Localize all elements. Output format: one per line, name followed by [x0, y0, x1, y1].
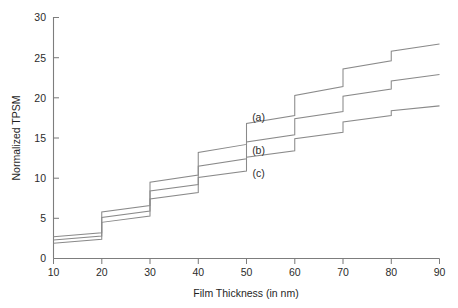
series-group [54, 44, 440, 243]
y-tick-label-0: 0 [40, 252, 46, 264]
y-tick-label-5: 5 [40, 212, 46, 224]
x-tick-label-10: 10 [48, 266, 60, 278]
x-axis-ticks [54, 259, 440, 265]
x-tick-label-60: 60 [289, 266, 301, 278]
x-tick-label-40: 40 [192, 266, 204, 278]
chart-page: 0 5 10 15 20 25 30 10 20 30 40 50 60 70 … [0, 0, 458, 308]
tpsm-vs-thickness-chart: 0 5 10 15 20 25 30 10 20 30 40 50 60 70 … [0, 0, 458, 308]
series-annotation-a: (a) [252, 111, 265, 123]
y-tick-label-20: 20 [34, 92, 46, 104]
x-tick-label-20: 20 [96, 266, 108, 278]
y-tick-label-10: 10 [34, 172, 46, 184]
series-annotation-c: (c) [252, 167, 264, 179]
y-tick-label-25: 25 [34, 52, 46, 64]
x-tick-label-80: 80 [385, 266, 397, 278]
y-axis-title: Normalized TPSM [10, 96, 22, 181]
y-tick-label-30: 30 [34, 11, 46, 23]
series-annotation-b: (b) [252, 144, 265, 156]
series-line-a [54, 44, 440, 237]
x-tick-label-90: 90 [434, 266, 446, 278]
y-tick-label-15: 15 [34, 132, 46, 144]
x-axis-title: Film Thickness (in nm) [193, 287, 298, 299]
x-tick-label-30: 30 [144, 266, 156, 278]
x-tick-label-50: 50 [241, 266, 253, 278]
y-axis-ticks [54, 18, 60, 259]
x-tick-label-70: 70 [337, 266, 349, 278]
